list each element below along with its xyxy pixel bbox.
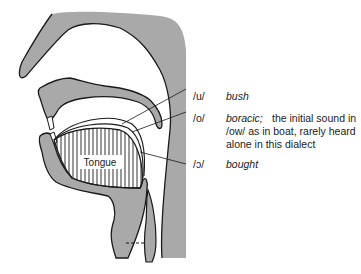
vowel-symbol-open-o: /ɔ/: [193, 158, 204, 171]
vowel-word-u: bush: [226, 90, 249, 103]
larynx: [145, 190, 157, 262]
palate-and-upper-lip: [39, 78, 163, 129]
vowel-word-open-o: bought: [226, 158, 258, 171]
vowel-symbol-o: /o/: [193, 112, 205, 125]
tongue-label: Tongue: [84, 157, 117, 168]
vowel-symbol-u: /u/: [193, 90, 205, 103]
vowel-note-o: the initial sound in /ow/ as in boat, ra…: [226, 112, 361, 151]
